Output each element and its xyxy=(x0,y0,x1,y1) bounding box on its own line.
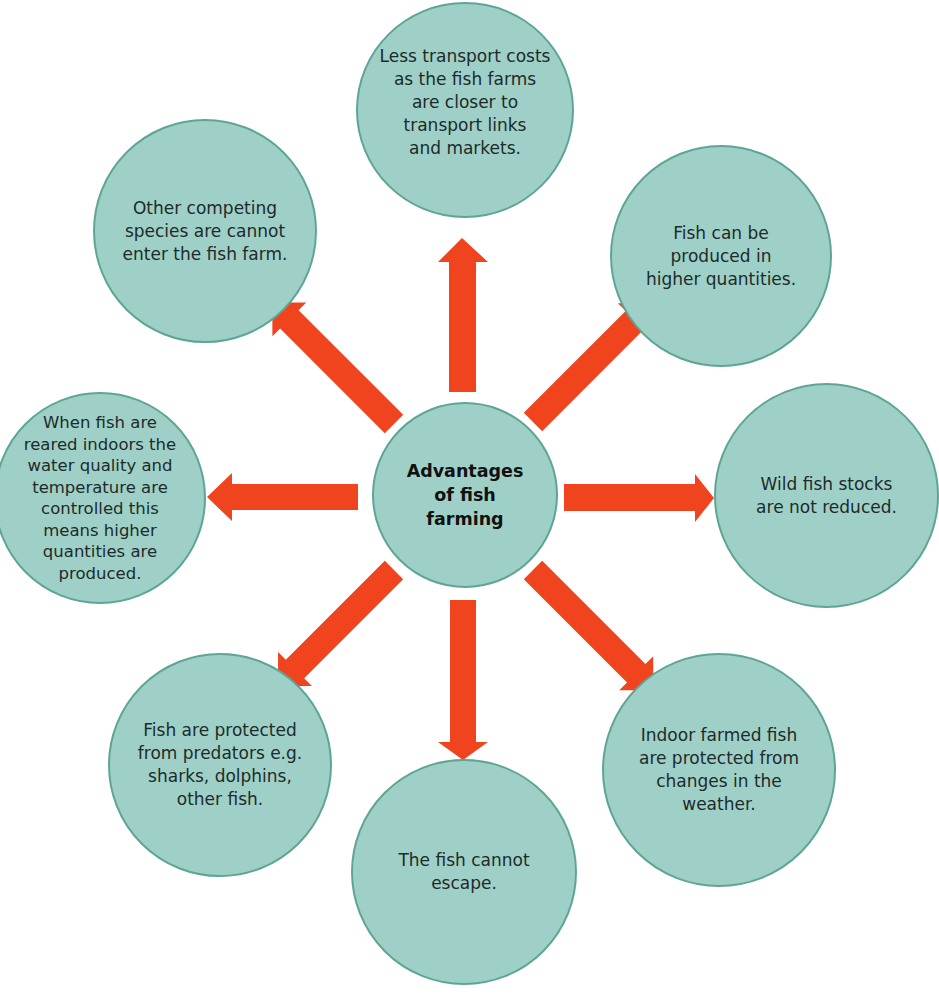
node-transport-costs: Less transport costs as the fish farms a… xyxy=(356,2,574,218)
node-label: The fish cannot escape. xyxy=(398,849,529,895)
node-higher-quantities: Fish can be produced in higher quantitie… xyxy=(610,145,832,367)
arrow-down-icon xyxy=(438,600,488,760)
node-weather-protection: Indoor farmed fish are protected from ch… xyxy=(602,653,836,887)
node-predator-protection: Fish are protected from predators e.g. s… xyxy=(108,653,332,877)
arrow-right-icon xyxy=(564,474,714,522)
fish-farming-advantages-diagram: Advantages of fish farming Less transpor… xyxy=(0,0,939,1002)
node-label: Less transport costs as the fish farms a… xyxy=(380,45,551,160)
center-node-label: Advantages of fish farming xyxy=(407,459,524,531)
node-competing-species: Other competing species are cannot enter… xyxy=(93,119,317,343)
node-label: Fish can be produced in higher quantitie… xyxy=(646,222,796,291)
node-label: When fish are reared indoors the water q… xyxy=(24,412,176,584)
arrow-left-icon xyxy=(207,473,358,521)
node-wild-stocks: Wild fish stocks are not reduced. xyxy=(714,383,939,608)
node-cannot-escape: The fish cannot escape. xyxy=(351,759,577,985)
node-label: Other competing species are cannot enter… xyxy=(123,197,288,266)
node-water-quality: When fish are reared indoors the water q… xyxy=(0,392,206,604)
node-label: Fish are protected from predators e.g. s… xyxy=(138,719,302,811)
node-label: Wild fish stocks are not reduced. xyxy=(756,473,897,519)
center-node: Advantages of fish farming xyxy=(372,402,558,588)
arrow-up-icon xyxy=(438,238,488,392)
node-label: Indoor farmed fish are protected from ch… xyxy=(639,724,799,816)
